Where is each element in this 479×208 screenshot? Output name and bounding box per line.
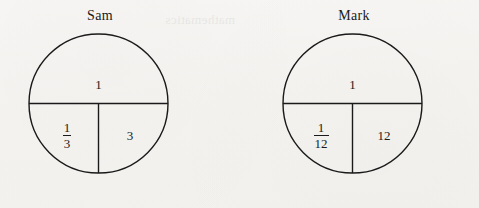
cell-bottom-left-sam: 1 3 (36, 121, 98, 150)
fraction-circle-diagram-mark: Mark 1 1 12 12 (254, 0, 454, 208)
cell-top-value-mark: 1 (282, 77, 423, 92)
fraction-circle-diagram-sam: Sam 1 1 3 3 (0, 0, 200, 208)
cell-bottom-right-value-sam: 3 (99, 128, 161, 143)
circle-svg-sam (28, 33, 169, 174)
cell-bottom-left-mark: 1 12 (290, 121, 352, 150)
cell-top-value-sam: 1 (28, 77, 169, 92)
worksheet-page: mathematics Sam 1 1 3 3 Mark (0, 0, 479, 208)
fraction-numerator-mark: 1 (313, 121, 330, 135)
fraction-denominator-mark: 12 (313, 136, 330, 150)
fraction-sam: 1 3 (62, 121, 73, 150)
cell-bottom-right-value-mark: 12 (353, 128, 415, 143)
diagram-name-label-sam: Sam (0, 8, 200, 24)
diagram-name-label-mark: Mark (254, 8, 454, 24)
fraction-mark: 1 12 (313, 121, 330, 150)
circle-graphic-mark: 1 1 12 12 (282, 33, 423, 174)
fraction-denominator-sam: 3 (62, 136, 73, 150)
circle-graphic-sam: 1 1 3 3 (28, 33, 169, 174)
fraction-numerator-sam: 1 (62, 121, 73, 135)
circle-svg-mark (282, 33, 423, 174)
